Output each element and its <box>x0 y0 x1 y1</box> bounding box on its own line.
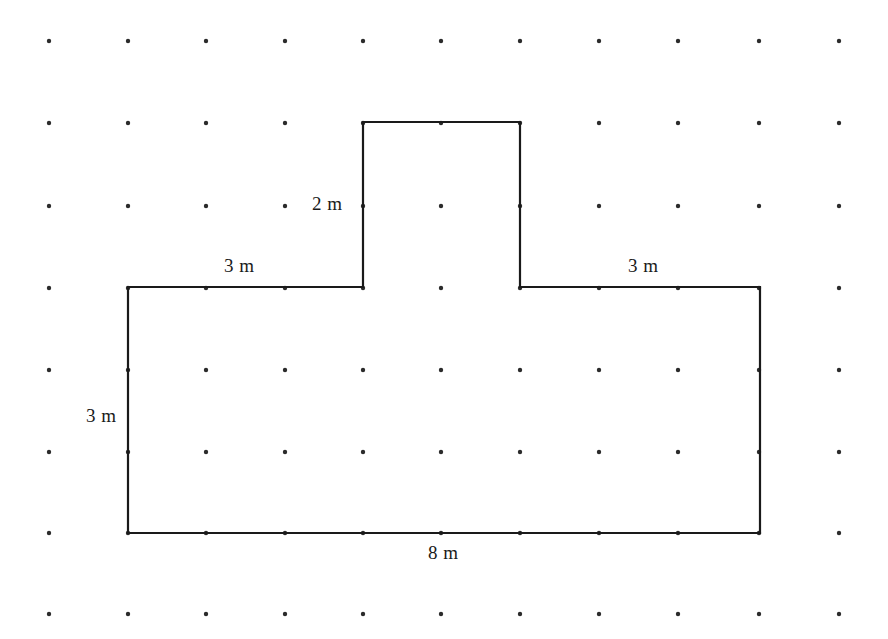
grid-dot <box>439 204 443 208</box>
grid-dot <box>439 612 443 616</box>
grid-dot <box>597 204 601 208</box>
grid-dot <box>518 39 522 43</box>
grid-dot <box>439 39 443 43</box>
grid-dot <box>361 39 365 43</box>
grid-dot <box>757 121 761 125</box>
grid-dot <box>126 121 130 125</box>
grid-dot <box>361 368 365 372</box>
grid-dot <box>204 39 208 43</box>
grid-dot <box>837 368 841 372</box>
grid-dot <box>204 450 208 454</box>
grid-dot <box>47 121 51 125</box>
grid-dot <box>676 368 680 372</box>
grid-dot <box>837 531 841 535</box>
grid-dot <box>518 450 522 454</box>
dimension-label-top-left-run: 3 m <box>224 256 255 275</box>
grid-dot <box>837 204 841 208</box>
grid-dot <box>837 612 841 616</box>
grid-dot <box>837 286 841 290</box>
grid-dot <box>518 368 522 372</box>
grid-dot <box>439 286 443 290</box>
grid-dot <box>47 204 51 208</box>
dimension-label-bottom-width: 8 m <box>428 543 459 562</box>
grid-dot <box>676 121 680 125</box>
dimension-label-tab-height: 2 m <box>312 194 343 213</box>
grid-dot <box>837 450 841 454</box>
grid-dot <box>204 121 208 125</box>
grid-dot <box>283 368 287 372</box>
grid-dot <box>757 612 761 616</box>
grid-dot <box>597 39 601 43</box>
grid-dot <box>757 204 761 208</box>
grid-dot <box>204 368 208 372</box>
grid-dot <box>837 121 841 125</box>
grid-dot <box>676 39 680 43</box>
grid-dot <box>126 204 130 208</box>
grid-dot <box>439 450 443 454</box>
grid-dot <box>283 450 287 454</box>
grid-dot <box>47 531 51 535</box>
grid-dot <box>126 39 130 43</box>
t-shape-outline <box>128 122 760 533</box>
grid-dot <box>597 450 601 454</box>
dimension-label-left-height: 3 m <box>86 406 117 425</box>
grid-dot <box>361 612 365 616</box>
grid-dot <box>439 368 443 372</box>
grid-dot <box>47 39 51 43</box>
grid-dot <box>597 612 601 616</box>
grid-dot <box>283 612 287 616</box>
grid-dot <box>47 286 51 290</box>
grid-dot <box>47 612 51 616</box>
grid-dot <box>518 612 522 616</box>
diagram-canvas: 2 m 3 m 3 m 3 m 8 m <box>0 0 888 639</box>
grid-dot <box>676 450 680 454</box>
grid-dot <box>126 612 130 616</box>
grid-dot <box>757 39 761 43</box>
grid-dot <box>47 368 51 372</box>
grid-dot <box>283 204 287 208</box>
grid-dot <box>47 450 51 454</box>
grid-dot <box>837 39 841 43</box>
grid-dot <box>283 121 287 125</box>
grid-dot <box>597 368 601 372</box>
grid-dot <box>204 204 208 208</box>
grid-dot <box>676 204 680 208</box>
grid-dot <box>676 612 680 616</box>
grid-dot <box>597 121 601 125</box>
grid-dot <box>361 450 365 454</box>
dot-grid <box>47 39 841 616</box>
dimension-label-top-right-run: 3 m <box>628 256 659 275</box>
grid-dot <box>283 39 287 43</box>
grid-dot <box>204 612 208 616</box>
